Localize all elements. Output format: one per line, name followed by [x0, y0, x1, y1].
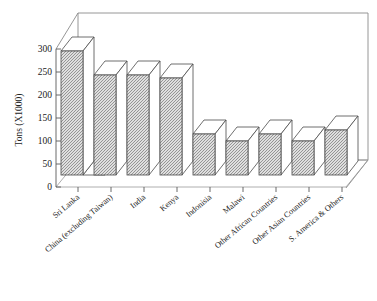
- y-axis: [56, 49, 61, 187]
- x-tick-label-malawi: Malawi: [221, 192, 246, 215]
- bar-indonisia: [193, 120, 226, 175]
- x-tick-label-other-african-countries: Other African Countries: [213, 193, 279, 251]
- bar-kenya: [160, 64, 193, 175]
- x-axis-ticks: [78, 187, 342, 192]
- y-tick-label-150: 150: [38, 113, 53, 123]
- x-tick-label-kenya: Kenya: [158, 192, 180, 213]
- chart-container: 300 250 200 150 100 50 0 Tons (X1000): [0, 0, 377, 301]
- y-tick-label-250: 250: [38, 67, 53, 77]
- x-tick-labels: Sri Lanka China (excluding Taiwan) India…: [43, 192, 345, 254]
- x-tick-label-india: India: [129, 192, 148, 210]
- bar-other-african-countries: [259, 120, 292, 175]
- y-tick-label-300: 300: [38, 44, 53, 54]
- y-tick-label-50: 50: [43, 159, 53, 169]
- bar-chart-3d: 300 250 200 150 100 50 0 Tons (X1000): [0, 0, 377, 301]
- bar-s-america-and-others: [325, 116, 358, 175]
- y-tick-label-0: 0: [47, 182, 52, 192]
- x-tick-label-china-excluding-taiwan: China (excluding Taiwan): [43, 192, 114, 254]
- y-tick-label-200: 200: [38, 90, 53, 100]
- y-tick-label-100: 100: [38, 136, 53, 146]
- y-axis-title: Tons (X1000): [14, 94, 25, 147]
- x-tick-label-s-america-and-others: S. America & Others: [287, 193, 345, 244]
- x-tick-label-sri-lanka: Sri Lanka: [51, 192, 82, 220]
- x-tick-label-indonisia: Indonisia: [184, 192, 213, 219]
- y-tick-labels: 300 250 200 150 100 50 0: [38, 44, 53, 192]
- bar-china-excluding-taiwan: [94, 61, 127, 175]
- bar-india: [127, 61, 160, 175]
- x-tick-label-other-asian-countries: Other Asian Countries: [250, 193, 312, 247]
- bar-other-asian-countries: [292, 127, 325, 175]
- bar-malawi: [226, 127, 259, 175]
